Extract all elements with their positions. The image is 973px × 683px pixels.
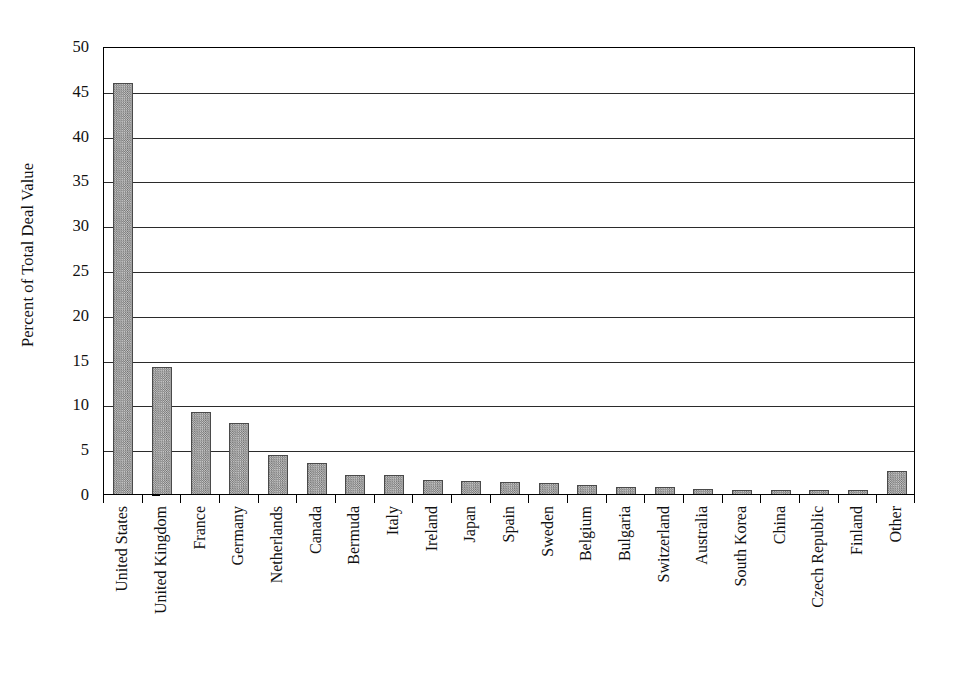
x-category-label: Sweden (528, 506, 567, 676)
bar (809, 490, 829, 494)
x-category-label: Other (876, 506, 915, 676)
bar (191, 412, 211, 494)
x-tick-mark (799, 495, 800, 503)
x-category-label: Italy (374, 506, 413, 676)
x-tick-mark (683, 495, 684, 503)
y-tick-label: 10 (73, 397, 90, 414)
x-tick-mark (606, 495, 607, 503)
x-category-label-text: Spain (501, 506, 517, 542)
bar (229, 423, 249, 494)
x-category-label-text: Ireland (424, 506, 440, 551)
x-category-label-text: Switzerland (656, 506, 672, 582)
x-tick-mark (374, 495, 375, 503)
bar (577, 485, 597, 494)
x-tick-mark (914, 495, 915, 503)
x-category-label: United States (103, 506, 142, 676)
x-category-label: Bulgaria (606, 506, 645, 676)
x-category-label-text: Sweden (540, 506, 556, 557)
x-category-label-text: Other (888, 506, 904, 542)
x-tick-mark (180, 495, 181, 503)
x-category-label-text: China (772, 506, 788, 544)
x-category-label-text: Finland (849, 506, 865, 555)
x-tick-mark (296, 495, 297, 503)
bar (113, 83, 133, 494)
x-tick-mark (722, 495, 723, 503)
x-category-label-text: Netherlands (269, 506, 285, 583)
x-category-label: United Kingdom (142, 506, 181, 676)
bar (152, 367, 172, 494)
y-tick-label: 30 (73, 218, 90, 235)
x-tick-mark (142, 495, 143, 503)
bar (616, 487, 636, 494)
x-category-label-text: Bermuda (346, 506, 362, 565)
y-tick-label: 25 (73, 263, 90, 280)
bar (345, 475, 365, 494)
x-category-label-text: United States (114, 506, 130, 592)
y-tick-label: 50 (73, 39, 90, 56)
x-tick-mark (644, 495, 645, 503)
x-category-label-text: Czech Republic (810, 506, 826, 608)
x-category-label: France (180, 506, 219, 676)
x-category-label-text: United Kingdom (153, 506, 169, 614)
bar (771, 490, 791, 494)
x-tick-mark (490, 495, 491, 503)
bar (848, 490, 868, 494)
x-category-label: Bermuda (335, 506, 374, 676)
x-category-label: Spain (490, 506, 529, 676)
bar (655, 487, 675, 494)
x-tick-mark (760, 495, 761, 503)
x-tick-mark (219, 495, 220, 503)
x-category-label: Australia (683, 506, 722, 676)
x-category-label: Canada (296, 506, 335, 676)
x-tick-mark (258, 495, 259, 503)
y-tick-label: 20 (73, 308, 90, 325)
bar (539, 483, 559, 494)
y-tick-label: 0 (81, 487, 89, 504)
x-tick-mark (876, 495, 877, 503)
x-tick-mark (103, 495, 104, 503)
bar (461, 481, 481, 494)
y-axis-title-label: Percent of Total Deal Value (18, 163, 38, 347)
y-tick-label: 40 (73, 128, 90, 145)
y-tick-label: 45 (73, 84, 90, 101)
x-category-label-text: France (192, 506, 208, 550)
x-category-label: Japan (451, 506, 490, 676)
x-tick-mark (528, 495, 529, 503)
x-category-label: Switzerland (644, 506, 683, 676)
x-category-label-text: Bulgaria (617, 506, 633, 561)
x-tick-mark (838, 495, 839, 503)
y-tick-label: 5 (81, 442, 89, 459)
x-category-label: Czech Republic (799, 506, 838, 676)
y-axis-tick-labels: 05101520253035404550 (56, 47, 96, 495)
bar (307, 463, 327, 494)
plot-area (103, 47, 915, 495)
x-category-label-text: Canada (308, 506, 324, 554)
x-category-label: Ireland (412, 506, 451, 676)
bar (268, 455, 288, 494)
bar (693, 489, 713, 494)
bar (384, 475, 404, 494)
y-tick-label: 35 (73, 173, 90, 190)
bars-layer (104, 48, 914, 494)
bar (423, 480, 443, 494)
x-axis-tick-marks (103, 495, 915, 504)
y-tick-label: 15 (73, 352, 90, 369)
x-category-label: Finland (838, 506, 877, 676)
x-category-label: Netherlands (258, 506, 297, 676)
x-tick-mark (451, 495, 452, 503)
x-category-label-text: Japan (462, 506, 478, 542)
x-category-label: Germany (219, 506, 258, 676)
x-category-label-text: South Korea (733, 506, 749, 586)
x-category-label: Belgium (567, 506, 606, 676)
bar (500, 482, 520, 494)
bar-chart: Percent of Total Deal Value 051015202530… (0, 0, 973, 683)
y-axis-title: Percent of Total Deal Value (0, 0, 56, 510)
x-category-label-text: Germany (230, 506, 246, 566)
x-axis-category-labels: United StatesUnited KingdomFranceGermany… (103, 506, 915, 676)
bar (887, 471, 907, 494)
x-tick-mark (335, 495, 336, 503)
x-tick-mark (567, 495, 568, 503)
x-tick-mark (412, 495, 413, 503)
x-category-label-text: Italy (385, 506, 401, 535)
bar (732, 490, 752, 494)
